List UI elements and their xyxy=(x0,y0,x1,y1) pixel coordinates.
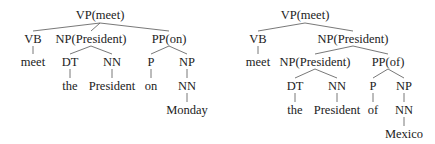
node-np-president: NP(President) xyxy=(56,32,127,46)
node-nn: NN xyxy=(103,55,121,69)
node-nn: NN xyxy=(328,79,346,93)
node-np: NP xyxy=(396,79,412,93)
node-vp-meet: VP(meet) xyxy=(281,8,330,22)
node-p: P xyxy=(370,79,377,93)
node-nn-2: NN xyxy=(178,79,196,93)
tree-edges xyxy=(0,0,435,144)
node-p: P xyxy=(148,55,155,69)
node-pp-on: PP(on) xyxy=(152,32,187,46)
leaf-the: the xyxy=(62,79,77,93)
leaf-mexico: Mexico xyxy=(385,127,423,141)
leaf-on: on xyxy=(145,79,158,93)
node-np: NP xyxy=(179,55,195,69)
node-vb: VB xyxy=(249,32,266,46)
node-vb: VB xyxy=(24,32,41,46)
leaf-president: President xyxy=(314,103,361,117)
node-np-president-inner: NP(President) xyxy=(280,55,351,69)
node-nn-2: NN xyxy=(395,103,413,117)
node-dt: DT xyxy=(62,55,79,69)
node-np-president: NP(President) xyxy=(318,32,389,46)
leaf-monday: Monday xyxy=(166,103,208,117)
node-vp-meet: VP(meet) xyxy=(76,8,125,22)
leaf-meet: meet xyxy=(246,55,270,69)
node-pp-of: PP(of) xyxy=(372,55,405,69)
node-dt: DT xyxy=(287,79,304,93)
leaf-of: of xyxy=(368,103,378,117)
leaf-president: President xyxy=(89,79,136,93)
leaf-the: the xyxy=(287,103,302,117)
leaf-meet: meet xyxy=(21,55,45,69)
